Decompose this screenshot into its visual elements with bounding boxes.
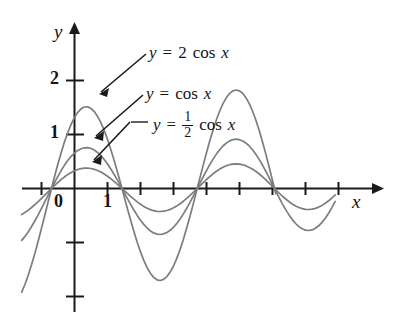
x-tick-label-1: 1 [103, 192, 112, 210]
annotation-2cos-eq: = [163, 43, 173, 62]
y-tick-label-2: 2 [50, 69, 59, 87]
annotation-cos-fn: cos [175, 84, 198, 103]
annotation-2cos-coef: 2 [178, 43, 187, 62]
annotation-halfcos-numerator: 1 [182, 110, 193, 125]
cosine-amplitude-figure: y x 0 1 2 1 y=2cosx y=cosx y=12cosx [0, 0, 396, 331]
annotation-2cos-lhs: y [149, 43, 157, 62]
origin-label: 0 [54, 192, 63, 210]
annotation-halfcos-fn: cos [199, 115, 222, 134]
annotation-cos-var: x [204, 84, 212, 103]
x-axis-label: x [352, 192, 360, 211]
annotation-halfcos-var: x [228, 115, 236, 134]
y-axis-arrowhead [69, 22, 80, 34]
annotation-halfcos-fraction: 12 [182, 110, 193, 140]
y-axis-label: y [54, 22, 62, 41]
annotation-cos-lhs: y [146, 84, 154, 103]
curve-cos [22, 139, 336, 240]
annotation-y-equals-cosx: y=cosx [143, 85, 214, 102]
annotation-2cos-var: x [221, 43, 229, 62]
annotation-leaders [92, 54, 148, 165]
annotation-y-equals-half-cosx: y=12cosx [150, 111, 238, 141]
annotation-halfcos-lhs: y [153, 115, 161, 134]
annotation-halfcos-eq: = [167, 115, 177, 134]
leader-line-2cos [101, 54, 146, 92]
leader-line-cos [96, 95, 143, 136]
annotation-halfcos-denominator: 2 [182, 125, 193, 141]
annotation-y-equals-2cosx: y=2cosx [146, 44, 232, 61]
y-tick-label-1: 1 [50, 123, 59, 141]
annotation-cos-eq: = [160, 84, 170, 103]
annotation-2cos-fn: cos [193, 43, 216, 62]
x-axis-arrowhead [372, 183, 384, 194]
